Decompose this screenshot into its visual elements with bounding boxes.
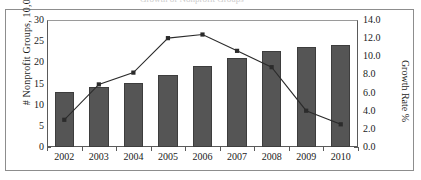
bar-2002	[55, 92, 74, 147]
right-tick-12.0: 12.0	[363, 33, 389, 43]
bar-slot-2005	[151, 20, 186, 147]
bar-2003	[89, 87, 108, 147]
right-axis-title-text: Growth Rate %	[397, 36, 411, 146]
bar-2006	[193, 66, 212, 147]
left-tick-15: 15	[18, 79, 44, 89]
x-label-2004: 2004	[116, 150, 151, 166]
x-label-2003: 2003	[82, 150, 117, 166]
x-label-2006: 2006	[185, 150, 220, 166]
cropped-title-text: Growth of Nonprofit Groups	[140, 0, 290, 4]
right-tick-8.0: 8.0	[363, 69, 389, 79]
right-tick-0.0: 0.0	[363, 142, 389, 152]
bar-slot-2010	[324, 20, 359, 147]
bar-2005	[158, 75, 177, 147]
right-tick-14.0: 14.0	[363, 15, 389, 25]
x-label-2005: 2005	[151, 150, 186, 166]
x-label-2009: 2009	[289, 150, 324, 166]
cropped-title-sliver: Growth of Nonprofit Groups	[140, 0, 290, 6]
left-axis-tick-labels: 302520151050	[16, 20, 44, 147]
bar-slot-2003	[82, 20, 117, 147]
bar-slot-2008	[254, 20, 289, 147]
x-tickmark	[358, 147, 359, 151]
right-tick-2.0: 2.0	[363, 124, 389, 134]
left-tick-10: 10	[18, 100, 44, 110]
bar-2008	[262, 51, 281, 147]
bar-slot-2002	[47, 20, 82, 147]
bar-slot-2004	[116, 20, 151, 147]
left-tick-30: 30	[18, 15, 44, 25]
bar-slot-2007	[220, 20, 255, 147]
left-tick-25: 25	[18, 36, 44, 46]
bar-2004	[124, 83, 143, 147]
x-label-2002: 2002	[47, 150, 82, 166]
bar-2007	[227, 58, 246, 147]
bar-2009	[297, 47, 316, 147]
bar-slot-2006	[185, 20, 220, 147]
right-tick-10.0: 10.0	[363, 51, 389, 61]
bar-slot-2009	[289, 20, 324, 147]
chart-figure: Growth of Nonprofit Groups # Nonprofit G…	[0, 0, 421, 180]
x-label-2008: 2008	[254, 150, 289, 166]
right-tick-6.0: 6.0	[363, 88, 389, 98]
left-tick-5: 5	[18, 121, 44, 131]
right-axis-title: Growth Rate %	[396, 36, 412, 146]
scan-bottom-edge	[0, 174, 421, 180]
left-tick-20: 20	[18, 57, 44, 67]
right-axis-tick-labels: 14.012.010.08.06.04.02.00.0	[363, 20, 391, 147]
x-axis-tick-labels: 200220032004200520062007200820092010	[47, 150, 358, 166]
bar-2010	[331, 45, 350, 147]
x-label-2007: 2007	[220, 150, 255, 166]
bar-series	[47, 20, 358, 147]
left-tick-0: 0	[18, 142, 44, 152]
right-tick-4.0: 4.0	[363, 106, 389, 116]
x-label-2010: 2010	[324, 150, 359, 166]
